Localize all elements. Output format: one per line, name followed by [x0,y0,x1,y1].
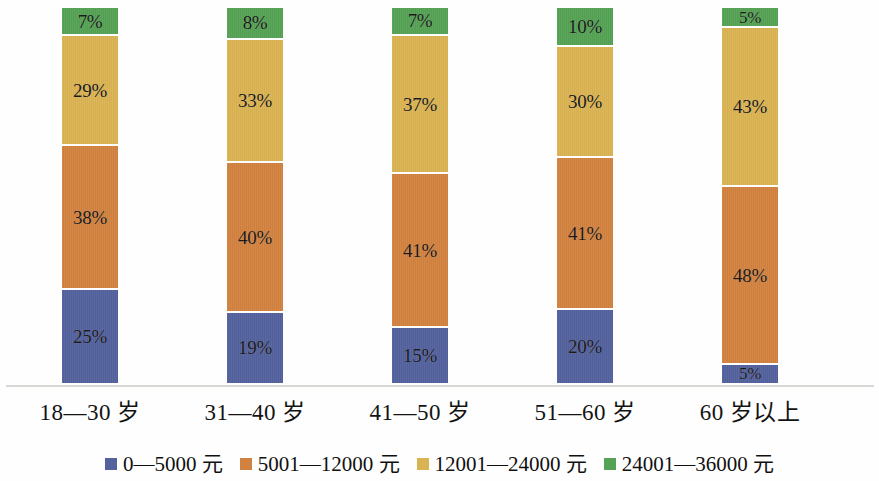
bar-segment: 33% [227,40,283,164]
category-axis-label: 60 岁以上 [660,393,840,427]
bar-segment: 20% [557,310,613,383]
bar-segment: 38% [62,146,118,290]
legend-swatch-income-24001-36000 [604,458,616,470]
bar-column: 10%30%41%20% [557,8,613,383]
bar-segment: 5% [722,8,778,28]
legend-item-label: 12001—24000 元 [435,454,587,475]
legend-item-label: 24001—36000 元 [622,454,774,475]
category-axis-label: 31—40 岁 [165,393,345,427]
legend-item[interactable]: 0—5000 元 [105,454,223,475]
legend-item[interactable]: 5001—12000 元 [240,454,400,475]
bar-segment-value-label: 7% [408,11,433,30]
bar-segment-value-label: 5% [739,365,761,382]
bar-column: 5%43%48%5% [722,8,778,383]
bar-segment: 25% [62,290,118,383]
category-axis-label: 41—50 岁 [330,393,510,427]
bar-segment-value-label: 38% [73,208,107,227]
category-axis-label: 18—30 岁 [0,393,180,427]
legend-item-label: 5001—12000 元 [258,454,400,475]
bar-segment-value-label: 40% [238,228,272,247]
bar-segment-value-label: 19% [238,338,272,357]
bar-segment: 41% [557,158,613,310]
bar-segment: 40% [227,163,283,313]
bar-segment-value-label: 20% [568,337,602,356]
stacked-bar-chart: 7%29%38%25%8%33%40%19%7%37%41%15%10%30%4… [0,0,879,481]
bar-segment-value-label: 7% [78,12,103,31]
category-axis-label: 51—60 岁 [495,393,675,427]
plot-area: 7%29%38%25%8%33%40%19%7%37%41%15%10%30%4… [0,0,879,388]
bar-column: 8%33%40%19% [227,8,283,383]
bar-segment-value-label: 33% [238,91,272,110]
chart-legend: 0—5000 元5001—12000 元12001—24000 元24001—3… [0,450,879,478]
legend-swatch-income-0-5000 [105,458,117,470]
bar-segment: 5% [722,365,778,383]
bar-segment: 41% [392,174,448,327]
bar-segment-value-label: 25% [73,327,107,346]
bar-segment-value-label: 43% [733,97,767,116]
legend-item[interactable]: 12001—24000 元 [417,454,587,475]
bar-segment-value-label: 29% [73,81,107,100]
bar-segment: 37% [392,36,448,175]
bar-segment-value-label: 41% [568,224,602,243]
bar-segment: 8% [227,8,283,40]
bar-segment-value-label: 37% [403,95,437,114]
legend-swatch-income-5001-12000 [240,458,252,470]
x-axis-line [6,385,874,387]
legend-item[interactable]: 24001—36000 元 [604,454,774,475]
bar-segment: 7% [62,8,118,36]
legend-swatch-income-12001-24000 [417,458,429,470]
bar-segment-value-label: 15% [403,346,437,365]
bar-segment: 43% [722,28,778,187]
bar-column: 7%37%41%15% [392,8,448,383]
bar-segment-value-label: 48% [733,266,767,285]
bar-segment: 30% [557,47,613,159]
bar-segment: 10% [557,8,613,47]
bar-segment-value-label: 10% [568,17,602,36]
bar-segment: 19% [227,313,283,383]
bar-column: 7%29%38%25% [62,8,118,383]
bar-segment: 7% [392,8,448,36]
category-axis: 18—30 岁31—40 岁41—50 岁51—60 岁60 岁以上 [0,393,879,429]
bar-segment-value-label: 5% [739,9,761,26]
bar-segment: 48% [722,187,778,364]
legend-item-label: 0—5000 元 [123,454,223,475]
bar-segment-value-label: 30% [568,92,602,111]
bar-segment-value-label: 41% [403,241,437,260]
bar-segment: 15% [392,328,448,383]
bar-segment-value-label: 8% [243,13,268,32]
bar-segment: 29% [62,36,118,146]
